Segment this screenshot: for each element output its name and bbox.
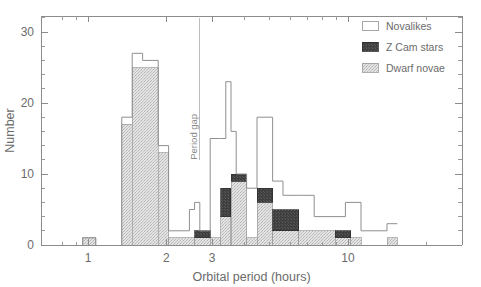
- legend-label: Z Cam stars: [386, 41, 443, 53]
- y-tick-label: 10: [21, 167, 35, 181]
- histogram-bar: [273, 210, 299, 231]
- legend-swatch: [362, 21, 378, 30]
- histogram-bar: [299, 231, 335, 245]
- legend-label: Dwarf novae: [386, 62, 445, 74]
- histogram-bar: [195, 231, 211, 238]
- histogram-bar: [231, 181, 247, 245]
- chart-legend: NovalikesZ Cam starsDwarf novae: [362, 20, 445, 74]
- y-axis-title: Number: [3, 108, 17, 152]
- x-tick-label: 2: [163, 251, 170, 265]
- histogram-bar: [335, 231, 351, 238]
- histogram-bar: [247, 238, 257, 245]
- histogram-bar: [195, 238, 211, 245]
- histogram-bar: [273, 231, 299, 245]
- legend-label: Novalikes: [386, 20, 432, 32]
- histogram-bar: [132, 68, 158, 246]
- histogram-bar: [169, 238, 195, 245]
- histogram-bar: [231, 174, 247, 181]
- legend-swatch: [362, 42, 378, 51]
- series-dwarf-novae: [83, 68, 398, 246]
- x-tick-label: 10: [341, 251, 355, 265]
- x-tick-label: 1: [85, 251, 92, 265]
- y-tick-label: 30: [21, 25, 35, 39]
- y-tick-label: 20: [21, 96, 35, 110]
- legend-swatch: [362, 63, 378, 72]
- x-tick-label: 3: [209, 251, 216, 265]
- chart-figure: 12310 0102030 NovalikesZ Cam starsDwarf …: [0, 0, 481, 287]
- y-tick-label: 0: [27, 238, 34, 252]
- x-axis-title: Orbital period (hours): [192, 270, 310, 284]
- histogram-bar: [221, 217, 231, 245]
- histogram-bar: [387, 238, 397, 245]
- histogram-bar: [351, 238, 361, 245]
- histogram-bar: [122, 124, 132, 245]
- histogram-bar: [83, 238, 96, 245]
- histogram-bar: [158, 153, 168, 245]
- period-gap-label: Period gap: [188, 114, 199, 160]
- histogram-bar: [221, 188, 231, 216]
- histogram-plot: 12310 0102030 NovalikesZ Cam starsDwarf …: [0, 0, 481, 287]
- histogram-bar: [257, 188, 273, 202]
- histogram-bar: [257, 202, 273, 245]
